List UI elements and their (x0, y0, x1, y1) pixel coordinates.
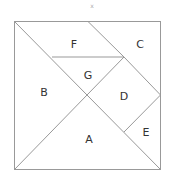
label-d: D (120, 90, 128, 103)
tangram-diagram: x A B C D E F G (0, 0, 169, 185)
fc-divider (88, 22, 124, 58)
label-c: C (136, 38, 144, 51)
label-b: B (40, 86, 48, 99)
diagonal-partial (15, 57, 125, 170)
top-mark: x (90, 2, 94, 9)
label-a: A (85, 133, 93, 146)
d-top-right (124, 57, 161, 95)
piece-labels: A B C D E F G (40, 38, 149, 146)
label-f: F (71, 38, 77, 51)
label-g: G (84, 69, 93, 82)
label-e: E (143, 126, 150, 139)
